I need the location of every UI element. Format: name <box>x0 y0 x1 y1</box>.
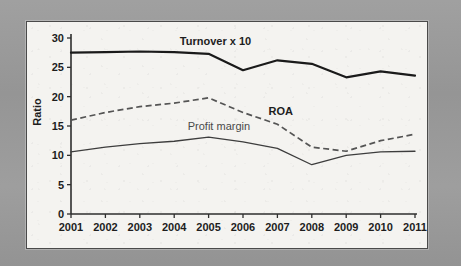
line-chart: 0510152025302001200220032004200520062007… <box>27 22 429 250</box>
x-axis-tick-label: 2010 <box>368 221 392 233</box>
x-axis-tick-label: 2004 <box>162 221 187 233</box>
y-axis-tick-label: 5 <box>58 179 64 191</box>
y-axis-tick-label: 25 <box>52 61 64 73</box>
x-axis-tick-label: 2011 <box>403 221 427 233</box>
x-axis-tick-label: 2007 <box>265 221 289 233</box>
x-axis-tick-label: 2005 <box>196 221 220 233</box>
x-axis-tick-label: 2009 <box>334 221 358 233</box>
y-axis-tick-label: 15 <box>52 120 64 132</box>
series-label-turnover: Turnover x 10 <box>180 35 251 47</box>
series-line-profit-margin <box>71 137 415 165</box>
y-axis-tick-label: 10 <box>52 149 64 161</box>
y-axis-tick-label: 20 <box>52 91 64 103</box>
x-axis-tick-label: 2001 <box>59 221 83 233</box>
chart-figure-panel: 0510152025302001200220032004200520062007… <box>26 21 428 249</box>
x-axis-tick-label: 2006 <box>231 221 255 233</box>
y-axis-tick-label: 30 <box>52 32 64 44</box>
x-axis-tick-label: 2008 <box>300 221 324 233</box>
x-axis-tick-label: 2002 <box>93 221 117 233</box>
series-line-turnover <box>71 51 415 77</box>
x-axis-tick-label: 2003 <box>128 221 152 233</box>
series-label-roa: ROA <box>269 105 294 117</box>
y-axis-tick-label: 0 <box>58 208 64 220</box>
y-axis-title: Ratio <box>31 98 43 126</box>
series-label-profit-margin: Profit margin <box>188 120 250 132</box>
